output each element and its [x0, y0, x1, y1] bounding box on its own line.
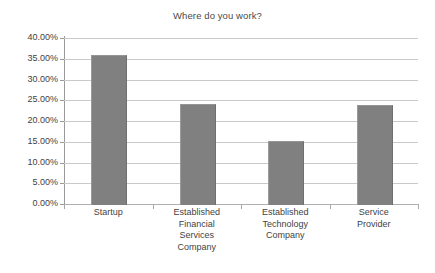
x-axis-category-line: Services — [153, 230, 242, 242]
y-axis-tick — [60, 100, 64, 101]
bar[interactable] — [180, 104, 216, 205]
y-axis-tick — [60, 38, 64, 39]
y-axis-tick — [60, 80, 64, 81]
bar-chart: Where do you work? 40.00%35.00%30.00%25.… — [0, 0, 435, 273]
x-axis-category-label: EstablishedTechnologyCompany — [241, 207, 330, 242]
y-axis-tick — [60, 121, 64, 122]
gridline — [64, 38, 418, 39]
y-axis-tick — [60, 59, 64, 60]
y-axis-tick-label: 10.00% — [0, 157, 58, 167]
x-axis-category-line: Technology — [241, 219, 330, 231]
y-axis-tick — [60, 183, 64, 184]
plot-area — [64, 38, 418, 204]
y-axis-tick — [60, 163, 64, 164]
x-axis-category-label: ServiceProvider — [330, 207, 419, 230]
y-axis-tick-label: 40.00% — [0, 32, 58, 42]
x-axis-category-label: Startup — [64, 207, 153, 219]
y-axis-tick-label: 25.00% — [0, 94, 58, 104]
y-axis-tick-label: 20.00% — [0, 115, 58, 125]
x-axis-tick — [418, 204, 419, 209]
y-axis-tick-label: 35.00% — [0, 53, 58, 63]
x-axis-category-line: Company — [241, 230, 330, 242]
x-axis-category-line: Service — [330, 207, 419, 219]
x-axis-category-line: Startup — [64, 207, 153, 219]
chart-title: Where do you work? — [0, 10, 435, 21]
x-axis-category-label: EstablishedFinancialServicesCompany — [153, 207, 242, 253]
y-axis-tick-label: 0.00% — [0, 198, 58, 208]
x-axis-category-line: Provider — [330, 219, 419, 231]
x-axis-category-line: Established — [241, 207, 330, 219]
bar[interactable] — [357, 105, 393, 205]
y-axis-tick-label: 15.00% — [0, 136, 58, 146]
x-axis-category-line: Company — [153, 242, 242, 254]
x-axis-category-line: Established — [153, 207, 242, 219]
x-axis-category-line: Financial — [153, 219, 242, 231]
y-axis-labels: 40.00%35.00%30.00%25.00%20.00%15.00%10.0… — [0, 0, 58, 273]
bar[interactable] — [91, 55, 127, 205]
y-axis-tick — [60, 142, 64, 143]
y-axis-tick-label: 5.00% — [0, 177, 58, 187]
y-axis-tick-label: 30.00% — [0, 74, 58, 84]
bar[interactable] — [268, 141, 304, 205]
